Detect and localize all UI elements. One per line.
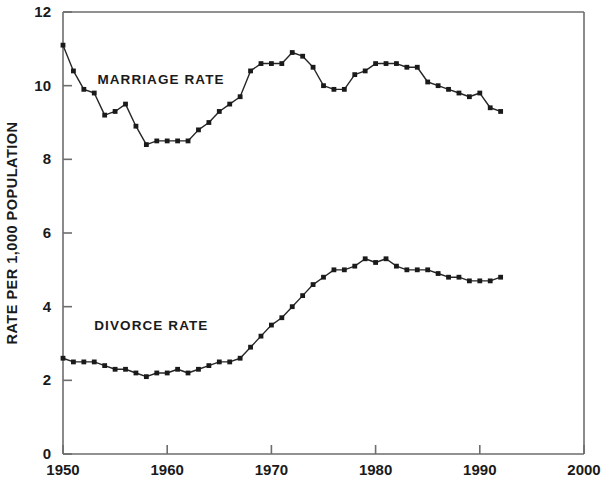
data-point-marker: [352, 72, 357, 77]
data-point-marker: [363, 256, 368, 261]
data-point-marker: [373, 61, 378, 66]
data-point-marker: [404, 65, 409, 70]
y-tick-label: 10: [34, 77, 51, 94]
x-tick-label: 1950: [46, 461, 79, 478]
data-point-marker: [248, 69, 253, 74]
data-point-marker: [342, 267, 347, 272]
data-point-marker: [311, 282, 316, 287]
data-point-marker: [269, 323, 274, 328]
data-point-marker: [415, 65, 420, 70]
data-point-marker: [467, 278, 472, 283]
data-point-marker: [446, 87, 451, 92]
data-point-marker: [248, 345, 253, 350]
data-point-marker: [165, 371, 170, 376]
data-point-marker: [259, 61, 264, 66]
data-point-marker: [446, 275, 451, 280]
data-point-marker: [92, 360, 97, 365]
data-point-marker: [175, 367, 180, 372]
data-point-marker: [92, 91, 97, 96]
data-point-marker: [206, 120, 211, 125]
data-point-marker: [363, 69, 368, 74]
data-point-marker: [300, 54, 305, 59]
x-tick-label: 1960: [151, 461, 184, 478]
data-point-marker: [102, 363, 107, 368]
data-point-marker: [61, 43, 66, 48]
data-point-marker: [71, 360, 76, 365]
data-point-marker: [457, 275, 462, 280]
data-point-marker: [269, 61, 274, 66]
data-point-marker: [477, 278, 482, 283]
data-point-marker: [154, 139, 159, 144]
y-tick-label: 2: [43, 371, 51, 388]
data-point-marker: [342, 87, 347, 92]
data-point-marker: [175, 139, 180, 144]
data-point-marker: [123, 102, 128, 107]
data-point-marker: [321, 275, 326, 280]
y-axis-title: RATE PER 1,000 POPULATION: [4, 121, 20, 344]
data-point-marker: [196, 127, 201, 132]
data-point-marker: [332, 267, 337, 272]
data-point-marker: [436, 83, 441, 88]
data-point-marker: [290, 304, 295, 309]
data-point-marker: [404, 267, 409, 272]
series-label-marriage: MARRIAGE RATE: [97, 72, 224, 87]
data-point-marker: [81, 87, 86, 92]
data-point-marker: [238, 94, 243, 99]
data-point-marker: [352, 264, 357, 269]
data-point-marker: [154, 371, 159, 376]
data-point-marker: [488, 278, 493, 283]
data-point-marker: [102, 113, 107, 118]
data-point-marker: [488, 105, 493, 110]
data-point-marker: [217, 109, 222, 114]
data-point-marker: [311, 65, 316, 70]
data-point-marker: [498, 275, 503, 280]
y-tick-label: 0: [43, 445, 51, 462]
data-point-marker: [415, 267, 420, 272]
data-point-marker: [321, 83, 326, 88]
data-point-marker: [373, 260, 378, 265]
series-label-divorce: DIVORCE RATE: [94, 318, 208, 333]
data-point-marker: [144, 374, 149, 379]
data-point-marker: [290, 50, 295, 55]
data-point-marker: [113, 109, 118, 114]
data-point-marker: [425, 80, 430, 85]
data-point-marker: [206, 363, 211, 368]
data-point-marker: [300, 293, 305, 298]
chart-canvas: 024681012 195019601970198019902000 RATE …: [0, 0, 603, 489]
data-point-marker: [467, 94, 472, 99]
data-point-marker: [477, 91, 482, 96]
y-tick-label: 6: [43, 224, 51, 241]
data-point-marker: [259, 334, 264, 339]
data-point-marker: [196, 367, 201, 372]
data-point-marker: [71, 69, 76, 74]
data-point-marker: [498, 109, 503, 114]
data-point-marker: [457, 91, 462, 96]
chart-background: [0, 0, 603, 489]
y-tick-label: 12: [34, 3, 51, 20]
marriage-divorce-rate-line-chart: 024681012 195019601970198019902000 RATE …: [0, 0, 603, 489]
data-point-marker: [61, 356, 66, 361]
data-point-marker: [279, 315, 284, 320]
data-point-marker: [186, 139, 191, 144]
data-point-marker: [436, 271, 441, 276]
data-point-marker: [81, 360, 86, 365]
data-point-marker: [384, 61, 389, 66]
data-point-marker: [217, 360, 222, 365]
data-point-marker: [332, 87, 337, 92]
data-point-marker: [113, 367, 118, 372]
data-point-marker: [384, 256, 389, 261]
data-point-marker: [144, 142, 149, 147]
x-tick-label: 1980: [359, 461, 392, 478]
y-tick-label: 8: [43, 150, 51, 167]
data-point-marker: [123, 367, 128, 372]
data-point-marker: [279, 61, 284, 66]
x-tick-label: 1990: [463, 461, 496, 478]
data-point-marker: [134, 371, 139, 376]
data-point-marker: [227, 102, 232, 107]
data-point-marker: [238, 356, 243, 361]
x-tick-label: 2000: [567, 461, 600, 478]
data-point-marker: [165, 139, 170, 144]
y-tick-label: 4: [43, 298, 52, 315]
x-tick-label: 1970: [255, 461, 288, 478]
data-point-marker: [394, 264, 399, 269]
